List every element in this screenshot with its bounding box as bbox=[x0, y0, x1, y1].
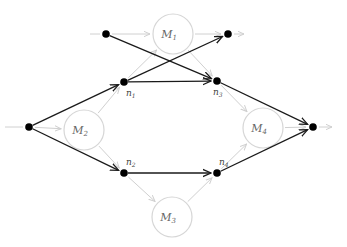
module-M2: M2 bbox=[64, 110, 104, 150]
node-n3 bbox=[213, 77, 221, 85]
node-label-n2: n2 bbox=[126, 157, 136, 168]
secondary-edges bbox=[5, 34, 332, 202]
node-n2 bbox=[120, 169, 128, 177]
primary-edges bbox=[33, 36, 308, 173]
node-top_right bbox=[224, 30, 232, 38]
node-label-n4: n4 bbox=[219, 157, 229, 168]
node-label-n3: n3 bbox=[213, 87, 223, 98]
primary-edge-n1-n3 bbox=[128, 81, 211, 82]
secondary-edge-M1-n3 bbox=[188, 50, 212, 76]
diagram-graphic: M1M2M3M4 n1n2n3n4 bbox=[0, 0, 347, 247]
module-M3: M3 bbox=[152, 197, 192, 237]
secondary-edge-M2-n2 bbox=[99, 146, 119, 168]
node-label-n1: n1 bbox=[126, 88, 136, 99]
secondary-edge-M2-n1 bbox=[98, 87, 119, 113]
node-n4 bbox=[213, 169, 221, 177]
module-M4: M4 bbox=[243, 108, 283, 148]
secondary-edge-src-M2 bbox=[35, 127, 61, 128]
module-M1: M1 bbox=[153, 14, 193, 54]
node-n1 bbox=[120, 78, 128, 86]
network-diagram: M1M2M3M4 n1n2n3n4 bbox=[0, 0, 347, 247]
secondary-edge-M3-n4 bbox=[188, 178, 212, 202]
modules: M1M2M3M4 bbox=[64, 14, 283, 237]
node-src bbox=[25, 123, 33, 131]
node-sink bbox=[309, 123, 317, 131]
node-top_left bbox=[102, 30, 110, 38]
secondary-edge-n2-M3 bbox=[128, 177, 155, 201]
